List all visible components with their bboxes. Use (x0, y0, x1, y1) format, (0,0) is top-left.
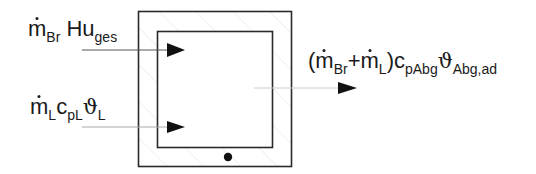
air-enthalpy-label: mLcpLϑL (30, 96, 106, 122)
fuel-energy-label: mBr Huges (28, 18, 117, 44)
mass-flow-symbol: m (30, 96, 48, 118)
mass-flow-symbol: m (28, 18, 46, 40)
mass-flow-symbol: m (361, 50, 379, 72)
mass-flow-symbol: m (315, 50, 333, 72)
exhaust-enthalpy-label: (mBr+mL)cpAbgϑAbg,ad (308, 50, 497, 76)
exhaust-arrow-icon (338, 82, 357, 94)
probe-dot-icon (224, 153, 232, 161)
diagram-canvas: mBr Huges mLcpLϑL (mBr+mL)cpAbgϑAbg,ad (0, 0, 536, 174)
